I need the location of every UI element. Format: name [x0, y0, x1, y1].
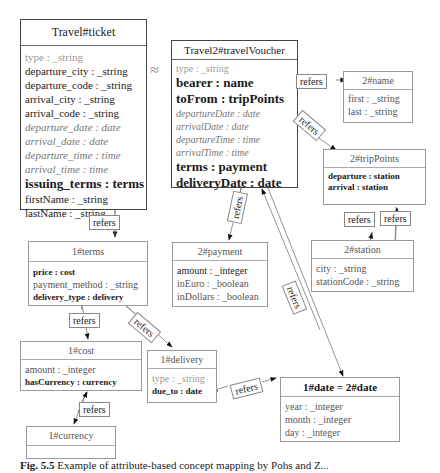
terms-attr-delivery-type: delivery_type : delivery	[33, 291, 143, 303]
station-class-title: 2#station	[312, 241, 413, 259]
cost-class-title: 1#cost	[21, 342, 141, 360]
station-attr-city: city : _string	[316, 262, 409, 275]
voucher-class-box[interactable]: Travel2#travelVoucher type : _string bea…	[171, 40, 298, 188]
terms-attr-payment-method: payment_method : _string	[33, 278, 143, 291]
figure-caption-text: Example of attribute-based concept mappi…	[57, 459, 329, 471]
ticket-class-box[interactable]: Travel#ticket type : _string departure_c…	[20, 19, 147, 210]
voucher-attr-tofrom: toFrom : tripPoints	[176, 91, 293, 107]
payment-class-box[interactable]: 2#payment amount : _integer inEuro : _bo…	[172, 242, 268, 307]
delivery-attr-type: type : _string	[152, 372, 212, 385]
refers-label-arrival-station: refers	[380, 211, 411, 226]
ticket-attr-type: type : _string	[25, 50, 142, 64]
terms-class-box[interactable]: 1#terms price : cost payment_method : _s…	[28, 241, 148, 306]
trippoints-class-box[interactable]: 2#tripPoints departure : station arrival…	[323, 149, 426, 205]
refers-label-bearer-name: refers	[296, 74, 327, 89]
voucher-attr-type: type : _string	[176, 62, 293, 75]
ticket-attr-departure-code: departure_code : _string	[25, 78, 142, 92]
trippoints-attr-departure: departure : station	[328, 171, 421, 182]
delivery-class-box[interactable]: 1#delivery type : _string due_to : date	[147, 350, 217, 403]
voucher-attr-arrivaldate: arrivalDate : date	[176, 120, 293, 133]
terms-class-title: 1#terms	[29, 242, 147, 262]
name-class-box[interactable]: 2#name first : _string last : _string	[343, 71, 413, 123]
ticket-attr-arrival-city: arrival_city : _string	[25, 92, 142, 106]
ticket-attr-departure-city: departure_city : _string	[25, 64, 142, 78]
station-class-box[interactable]: 2#station city : _string stationCode : _…	[311, 240, 414, 292]
payment-attr-indollars: inDollars : _boolean	[177, 290, 263, 303]
ticket-attr-departure-date: departure_date : date	[25, 120, 142, 134]
ticket-attr-arrival-time: arrival_time : time	[25, 162, 142, 176]
refers-label-price-cost: refers	[69, 313, 100, 328]
voucher-attr-terms: terms : payment	[176, 159, 293, 175]
date-attr-year: year : _integer	[285, 400, 395, 413]
name-attr-first: first : _string	[348, 92, 408, 105]
name-attr-last: last : _string	[348, 105, 408, 118]
voucher-attr-bearer: bearer : name	[176, 75, 293, 91]
refers-label-ticket-terms: refers	[89, 215, 120, 230]
date-attr-day: day : _integer	[285, 426, 395, 439]
voucher-attr-arrivaltime: arrivalTime : time	[176, 146, 293, 159]
voucher-attr-deliverydate: deliveryDate : date	[176, 175, 293, 191]
ticket-attr-departure-time: departure_time : time	[25, 148, 142, 162]
delivery-attr-due-to: due_to : date	[152, 385, 212, 397]
approx-equal-symbol: ≈	[150, 61, 159, 79]
voucher-class-title: Travel2#travelVoucher	[172, 41, 297, 60]
delivery-class-title: 1#delivery	[148, 351, 216, 369]
ticket-attr-firstname: firstName : _string	[25, 192, 142, 206]
figure-caption: Fig. 5.5 Example of attribute-based conc…	[20, 459, 329, 471]
date-attr-month: month : _integer	[285, 413, 395, 426]
trippoints-attr-arrival: arrival : station	[328, 182, 421, 193]
figure-caption-label: Fig. 5.5	[20, 459, 55, 471]
voucher-attr-departuretime: departureTime : time	[176, 133, 293, 146]
payment-class-title: 2#payment	[173, 243, 267, 261]
payment-attr-amount: amount : _integer	[177, 264, 263, 277]
cost-class-box[interactable]: 1#cost amount : _integer hasCurrency : c…	[20, 341, 142, 391]
trippoints-class-title: 2#tripPoints	[324, 150, 425, 168]
currency-class-title: 1#currency	[27, 427, 115, 446]
payment-attr-ineuro: inEuro : _boolean	[177, 277, 263, 290]
cost-attr-hascurrency: hasCurrency : currency	[25, 376, 137, 388]
ticket-class-title: Travel#ticket	[21, 20, 146, 46]
ticket-attr-arrival-date: arrival_date : date	[25, 134, 142, 148]
currency-class-box[interactable]: 1#currency	[26, 426, 116, 459]
station-attr-stationcode: stationCode : _string	[316, 275, 409, 288]
refers-label-hascurrency-currency: refers	[79, 402, 110, 417]
ticket-attr-issuing-terms: issuing_terms : terms	[25, 176, 142, 192]
date-class-box[interactable]: 1#date = 2#date year : _integer month : …	[280, 377, 400, 442]
ticket-attr-arrival-code: arrival_code : _string	[25, 106, 142, 120]
ticket-attr-lastname: lastName : _string	[25, 206, 142, 220]
name-class-title: 2#name	[344, 72, 412, 90]
refers-label-departure-station: refers	[344, 212, 375, 227]
date-class-title: 1#date = 2#date	[281, 378, 399, 397]
cost-attr-amount: amount : _integer	[25, 363, 137, 376]
terms-attr-price: price : cost	[33, 266, 143, 278]
voucher-attr-departuredate: departureDate : date	[176, 107, 293, 120]
